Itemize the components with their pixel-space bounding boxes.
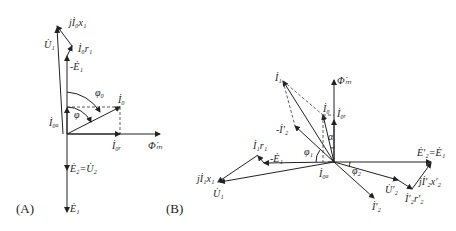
i1-r1-vector <box>258 156 264 163</box>
label-e1: Ė₁ <box>69 203 80 214</box>
parallelogram-edge-1 <box>283 81 323 115</box>
label-phi-m: Φ̇ₘ <box>148 140 163 151</box>
label-e2p-e1: Ė′₂=Ė₁ <box>416 147 445 158</box>
parallelogram-edge-2 <box>283 81 295 126</box>
label-u1: U̇₁ <box>44 39 55 50</box>
label-i2p-r2p: İ′₂r′₂ <box>404 193 424 204</box>
label-phi-m: Φ̇ₘ <box>337 75 352 86</box>
label-alpha: α <box>328 131 334 142</box>
label-phi1: φ₁ <box>304 146 313 157</box>
caption-a: (A) <box>16 201 34 216</box>
diagram-a: jİ₀x₁ U̇₁ İ₀r₁ -Ė₁ φ₀ İ₀ φ İ₀ₐ İ₀ᵣ Φ̇ₘ Ė… <box>16 17 163 216</box>
j-i1-x1-vector <box>218 155 258 182</box>
label-i1-r1: İ₁r₁ <box>252 140 267 151</box>
label-neg-e1: -Ė₁ <box>70 61 83 72</box>
label-i0-r1: İ₀r₁ <box>77 43 92 54</box>
label-e2-u2: Ė₂=U̇₂ <box>69 163 98 174</box>
label-phi: φ <box>74 109 80 120</box>
u1-vector <box>220 162 334 182</box>
phasor-diagrams: jİ₀x₁ U̇₁ İ₀r₁ -Ė₁ φ₀ İ₀ φ İ₀ₐ İ₀ᵣ Φ̇ₘ Ė… <box>0 0 456 231</box>
label-phi2: φ₂ <box>352 165 362 176</box>
phi1-arc <box>316 150 320 162</box>
label-u2p: U̇′₂ <box>385 184 398 195</box>
label-neg-e1: -Ė₁ <box>270 153 283 164</box>
label-i0r: İ₀ᵣ <box>336 108 347 119</box>
label-i0r: İ₀ᵣ <box>111 140 122 151</box>
label-phi0: φ₀ <box>95 87 105 98</box>
label-i0: İ₀ <box>117 94 125 105</box>
caption-b: (B) <box>166 201 183 216</box>
label-neg-i2p: -İ′₂ <box>276 124 289 135</box>
diagram-b: İ₁ Φ̇ₘ İ₀ İ₀ᵣ -İ′₂ α İ₁r₁ -Ė₁ φ₁ jİ₁x₁ U… <box>166 72 445 216</box>
label-j-i2p-x2p: jİ′₂x′₂ <box>417 176 441 187</box>
label-i2p: İ′₂ <box>371 201 382 212</box>
label-i0a: İ₀ₐ <box>48 117 59 128</box>
j-i0-x1-vector <box>57 26 72 46</box>
label-i0a: İ₀ₐ <box>318 168 329 179</box>
label-i1: İ₁ <box>274 72 282 83</box>
label-u1: U̇₁ <box>213 188 224 199</box>
label-j-i0-x1: jİ₀x₁ <box>67 17 87 28</box>
label-i0: İ₀ <box>322 103 330 114</box>
i2p-r2p-vector <box>398 180 412 189</box>
i0-r1-vector <box>67 46 72 56</box>
label-j-i1-x1: jİ₁x₁ <box>195 173 215 184</box>
